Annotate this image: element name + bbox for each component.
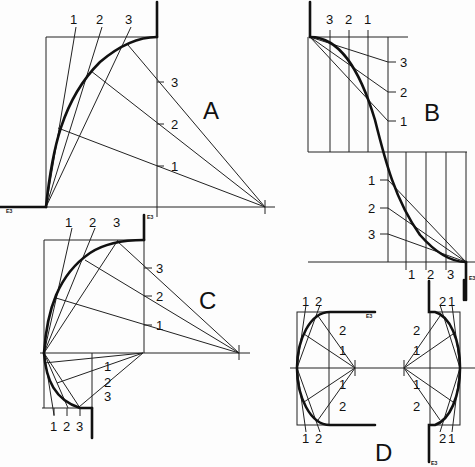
panel-c-side-label-1: 1 (156, 318, 163, 333)
diagram-svg: 1 2 3 3 2 1 A ЕЗ 3 2 1 (0, 0, 475, 467)
panel-b-letter: B (424, 99, 440, 126)
panel-c-lower-bottom-label-3: 3 (76, 419, 83, 434)
panel-c-tiny-mark: ЕЗ (147, 214, 153, 220)
panel-b-bottom-label-2: 2 (427, 267, 434, 282)
panel-c-lower-side-label-3: 3 (104, 389, 111, 404)
panel-c-side-label-3: 3 (156, 261, 163, 276)
panel-d-left-ray-bot-a (318, 368, 355, 420)
panel-b-lower-side-label-2: 2 (368, 201, 375, 216)
panel-d-right-ray-2 (440, 305, 460, 368)
panel-d-right-side-label-1b: 1 (413, 377, 420, 392)
panel-c-side-label-2: 2 (156, 289, 163, 304)
panel-a-ray-3 (46, 27, 131, 207)
panel-d-right-ray-bot-a (404, 368, 440, 420)
panel-d-left-ray-2b (297, 368, 320, 432)
panel-a-focal-ray-1 (58, 128, 265, 207)
panel-c: 1 2 3 3 2 1 C ЕЗ 1 2 3 1 2 3 (40, 214, 250, 438)
panel-c-letter: C (199, 287, 216, 314)
panel-d-right-top-label-2: 2 (439, 294, 446, 309)
curve-construction-diagram: 1 2 3 3 2 1 A ЕЗ 3 2 1 (0, 0, 475, 467)
panel-a-curve (46, 37, 157, 207)
panel-d-left-ray-2 (297, 305, 320, 368)
panel-b-lower-side-label-3: 3 (368, 227, 375, 242)
panel-d-left-side-label-2b: 2 (339, 399, 346, 414)
panel-d-left-top-label-2: 2 (315, 294, 322, 309)
panel-d-right-top-label-1: 1 (448, 294, 455, 309)
panel-b-top-label-1: 1 (364, 12, 371, 27)
panel-c-lower-side-label-1: 1 (104, 359, 111, 374)
panel-a-focal-ray-3 (128, 45, 265, 207)
panel-d: 1 2 1 2 2 1 1 2 ЕЗ 2 1 2 1 2 1 1 2 D ЕЗ (290, 280, 475, 466)
panel-d-left-ray-top-a (318, 316, 355, 368)
panel-c-curve (44, 240, 144, 353)
panel-c-top-label-1: 1 (65, 215, 72, 230)
panel-a-side-label-1: 1 (171, 159, 178, 174)
panel-a-top-label-2: 2 (96, 12, 103, 27)
panel-c-lower-side-label-2: 2 (104, 375, 111, 390)
panel-d-right-ray-2b (440, 368, 460, 432)
panel-c-lower-bottom-label-2: 2 (63, 419, 70, 434)
panel-d-right-tiny-mark: ЕЗ (431, 460, 437, 466)
panel-c-focal-ray-3 (117, 241, 239, 353)
panel-d-left-bottom-label-2: 2 (315, 431, 322, 446)
panel-d-left-top-label-1: 1 (302, 294, 309, 309)
panel-d-left-side-label-2a: 2 (339, 323, 346, 338)
panel-c-top-label-3: 3 (113, 215, 120, 230)
panel-b-side-label-1: 1 (400, 114, 407, 129)
panel-a-side-label-3: 3 (171, 75, 178, 90)
panel-a-top-label-1: 1 (70, 12, 77, 27)
panel-a: 1 2 3 3 2 1 A ЕЗ (0, 2, 275, 217)
panel-d-right-side-label-2b: 2 (413, 399, 420, 414)
panel-d-right-side-label-2a: 2 (413, 323, 420, 338)
panel-d-right-bottom-label-2: 2 (439, 431, 446, 446)
panel-d-left-side-label-1a: 1 (339, 343, 346, 358)
panel-b-bottom-label-1: 1 (408, 267, 415, 282)
panel-d-right-ray-top-b (404, 334, 453, 368)
panel-b-tiny-mark: ЕЗ (469, 275, 475, 281)
panel-b-lower-side-label-1: 1 (368, 173, 375, 188)
panel-b-lower-ray-1 (388, 180, 466, 262)
panel-b-side-label-3: 3 (400, 55, 407, 70)
panel-a-side-label-2: 2 (171, 117, 178, 132)
panel-c-ray-2 (44, 228, 95, 353)
panel-a-focal-ray-2 (91, 71, 265, 207)
panel-c-lower-bottom-label-1: 1 (50, 419, 57, 434)
panel-b-bottom-label-3: 3 (447, 267, 454, 282)
panel-a-letter: A (203, 97, 219, 124)
panel-b-side-label-2: 2 (400, 85, 407, 100)
panel-b: 3 2 1 3 2 1 B 1 2 3 1 2 3 ЕЗ (308, 2, 475, 300)
panel-b-lower-ray-2 (388, 208, 466, 262)
panel-a-ray-2 (46, 27, 102, 207)
panel-b-top-label-2: 2 (345, 12, 352, 27)
panel-d-left-tiny-mark: ЕЗ (366, 313, 372, 319)
panel-d-right-ray-bot-b (404, 368, 453, 402)
panel-b-lower-ray-3 (388, 234, 466, 262)
panel-d-right-bottom-label-1: 1 (448, 431, 455, 446)
panel-d-left-bottom-label-1: 1 (302, 431, 309, 446)
panel-d-left-side-label-1b: 1 (339, 377, 346, 392)
panel-a-top-label-3: 3 (125, 12, 132, 27)
panel-c-top-label-2: 2 (89, 215, 96, 230)
panel-a-tiny-mark: ЕЗ (6, 208, 12, 214)
panel-d-right-ray-top-a (404, 316, 440, 368)
panel-d-letter: D (375, 439, 392, 466)
panel-b-top-label-3: 3 (326, 12, 333, 27)
panel-d-right-side-label-1a: 1 (413, 343, 420, 358)
